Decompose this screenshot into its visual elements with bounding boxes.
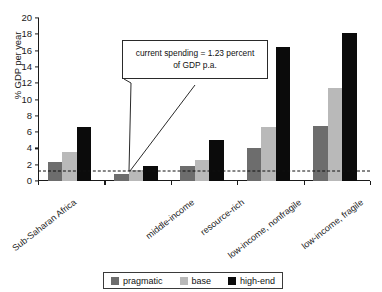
y-tick-label-0: 0 [6,176,32,186]
y-tick-mark-8 [35,115,39,116]
current-spending-reference-line [38,170,370,171]
bar-high-end-2 [209,140,224,181]
x-tick-mark-3 [237,181,238,186]
y-tick-label-2: 2 [6,160,32,170]
bar-pragmatic-1 [114,174,129,181]
y-tick-label-4: 4 [6,144,32,154]
bar-chart: % GDP per year 02468101214161820 current… [0,0,382,292]
y-tick-label-8: 8 [6,111,32,121]
x-label-0: Sub-Saharan Africa [0,197,78,291]
legend-swatch-base [180,277,188,285]
x-tick-mark-4 [304,181,305,186]
y-tick-label-20: 20 [6,13,32,23]
x-tick-mark-1 [104,181,105,186]
callout-line-1: current spending = 1.23 percent [128,47,262,59]
bar-high-end-0 [77,127,92,181]
bar-pragmatic-0 [48,162,63,181]
legend-label-high-end: high-end [240,276,275,286]
y-tick-mark-18 [35,34,39,35]
x-tick-mark-5 [370,181,371,186]
legend-label-pragmatic: pragmatic [123,276,163,286]
y-tick-mark-10 [35,99,39,100]
bar-base-4 [328,88,343,181]
legend-item-base: base [180,276,212,286]
y-tick-mark-4 [35,148,39,149]
y-tick-label-10: 10 [6,95,32,105]
chart-legend: pragmatic base high-end [103,272,283,289]
y-tick-label-16: 16 [6,46,32,56]
y-tick-label-18: 18 [6,30,32,40]
bar-base-1 [129,170,144,181]
legend-item-high-end: high-end [228,276,275,286]
y-tick-mark-16 [35,50,39,51]
y-tick-mark-6 [35,132,39,133]
bar-pragmatic-3 [247,148,262,181]
y-tick-mark-20 [35,17,39,18]
current-spending-callout: current spending = 1.23 percent of GDP p… [122,40,268,79]
x-tick-mark-0 [38,181,39,186]
y-tick-mark-12 [35,83,39,84]
legend-swatch-high-end [228,277,236,285]
bar-pragmatic-4 [313,126,328,181]
bar-high-end-4 [342,33,357,181]
y-tick-label-6: 6 [6,127,32,137]
callout-line-2: of GDP p.a. [128,59,262,71]
y-tick-label-12: 12 [6,78,32,88]
y-tick-label-14: 14 [6,62,32,72]
bar-pragmatic-2 [180,166,195,181]
bar-high-end-1 [143,166,158,181]
x-tick-mark-2 [171,181,172,186]
legend-item-pragmatic: pragmatic [111,276,163,286]
y-tick-mark-2 [35,164,39,165]
bar-high-end-3 [276,47,291,181]
legend-swatch-pragmatic [111,277,119,285]
bar-base-3 [261,127,276,181]
legend-label-base: base [192,276,212,286]
y-tick-mark-14 [35,66,39,67]
bar-base-0 [62,152,77,181]
